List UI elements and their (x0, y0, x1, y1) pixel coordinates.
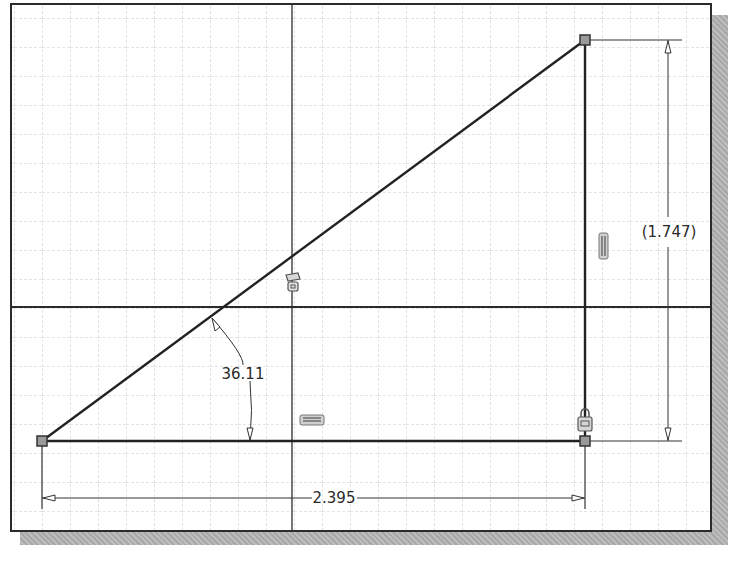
vertical-constraint-icon[interactable] (599, 233, 608, 259)
point-bottom-right[interactable] (580, 436, 590, 446)
dimension-horizontal-label[interactable]: 2.395 (313, 489, 356, 507)
horizontal-constraint-icon[interactable] (300, 415, 324, 425)
grid (12, 5, 710, 530)
sketch-canvas[interactable]: 2.395 (1.747) 36.11 (10, 3, 712, 532)
point-bottom-left[interactable] (37, 436, 47, 446)
sketch-svg: 2.395 (1.747) 36.11 (12, 5, 710, 530)
dimension-vertical-label[interactable]: (1.747) (642, 223, 697, 241)
point-top-right[interactable] (580, 35, 590, 45)
dimension-angle-label[interactable]: 36.11 (222, 365, 265, 383)
